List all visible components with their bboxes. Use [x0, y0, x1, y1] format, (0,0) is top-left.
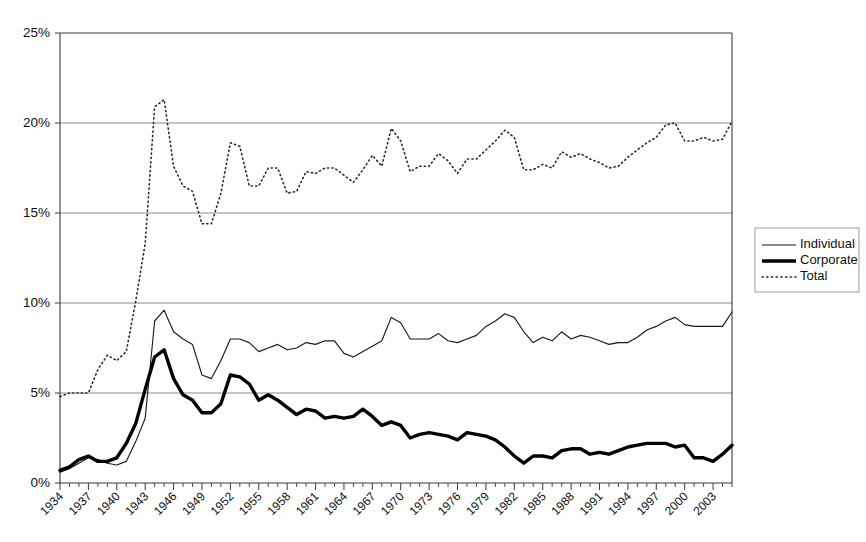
y-tick-label: 15%: [23, 205, 50, 220]
series-line-corporate: [60, 350, 732, 471]
y-tick-label: 20%: [23, 115, 50, 130]
axes: [60, 33, 732, 483]
x-tick-label: 1970: [378, 489, 407, 518]
x-tick-label: 1982: [492, 489, 521, 518]
x-tick-label: 1934: [37, 489, 66, 518]
x-tick-label: 1961: [293, 489, 322, 518]
x-tick-label: 1943: [123, 489, 152, 518]
x-tick-label: 1988: [548, 489, 577, 518]
x-tick-label: 1958: [264, 489, 293, 518]
y-tick-label: 10%: [23, 295, 50, 310]
legend-label-total: Total: [800, 268, 828, 283]
x-tick-label: 1955: [236, 489, 265, 518]
legend-label-individual: Individual: [800, 236, 855, 251]
x-tick-label: 1949: [179, 489, 208, 518]
x-axis-labels: 1934193719401943194619491952195519581961…: [37, 489, 719, 518]
x-tick-label: 1952: [208, 489, 237, 518]
y-tick-label: 5%: [30, 385, 50, 400]
y-axis-labels: 0%5%10%15%20%25%: [23, 25, 50, 490]
x-tick-label: 1985: [520, 489, 549, 518]
x-tick-label: 1964: [321, 489, 350, 518]
y-tick-label: 25%: [23, 25, 50, 40]
chart-legend: Individual Corporate Total: [755, 228, 859, 292]
x-tick-label: 1967: [350, 489, 379, 518]
x-tick-label: 1991: [577, 489, 606, 518]
data-series-layer: [60, 100, 732, 473]
x-tick-label: 2000: [662, 489, 691, 518]
y-axis-ticks: [55, 33, 60, 483]
x-tick-label: 1994: [605, 489, 634, 518]
y-tick-label: 0%: [30, 475, 50, 490]
x-tick-label: 1997: [634, 489, 663, 518]
x-tick-label: 1976: [435, 489, 464, 518]
x-tick-label: 1940: [94, 489, 123, 518]
x-tick-label: 1973: [406, 489, 435, 518]
x-tick-label: 1937: [66, 489, 95, 518]
x-tick-label: 1946: [151, 489, 180, 518]
x-tick-label: 2003: [690, 489, 719, 518]
legend-label-corporate: Corporate: [800, 252, 858, 267]
line-chart: 0%5%10%15%20%25% 19341937194019431946194…: [0, 0, 866, 542]
chart-container: 0%5%10%15%20%25% 19341937194019431946194…: [0, 0, 866, 542]
x-tick-label: 1979: [463, 489, 492, 518]
